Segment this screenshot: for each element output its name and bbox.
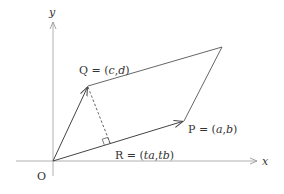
point-r-coord-tb: tb <box>158 149 169 162</box>
point-p-coord-b: b <box>226 123 233 136</box>
point-r-coord-ta: ta <box>144 149 155 162</box>
vector-oq <box>53 87 88 161</box>
point-p-label: P = (a,b) <box>188 123 237 136</box>
point-q-coord-d: d <box>118 64 125 77</box>
point-q-label: Q = (c,d) <box>79 64 130 77</box>
x-axis-label: x <box>262 155 269 168</box>
point-q-close: ) <box>125 64 129 77</box>
point-p-close: ) <box>233 123 237 136</box>
point-r-label: R = (ta,tb) <box>115 149 174 162</box>
y-axis-label: y <box>48 6 56 19</box>
point-q-name: Q = ( <box>79 64 109 77</box>
point-r-name: R = ( <box>115 149 144 162</box>
point-r-close: ) <box>170 149 174 162</box>
side-s-to-p <box>184 47 222 121</box>
parallelogram-diagram: y x O Q = (c,d) P = (a,b) R = (ta,tb) <box>0 0 284 194</box>
perpendicular-qr <box>88 87 110 143</box>
point-p-name: P = ( <box>188 123 216 136</box>
origin-label: O <box>37 170 46 183</box>
